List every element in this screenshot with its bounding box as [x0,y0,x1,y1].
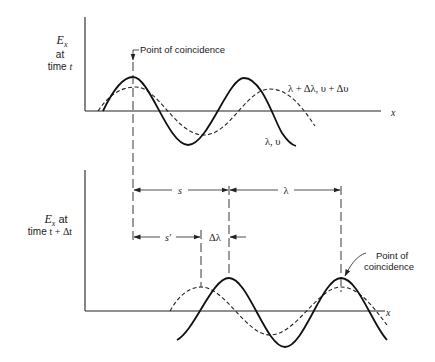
bottom-coincidence-annotation-line1: Point of [376,250,409,261]
s-prime-label: s′ [165,232,172,243]
top-panel: x Ex at time t λ + Δλ, υ + Δυ λ, υ Point… [48,17,396,147]
s-label: s [178,185,182,196]
top-coincidence-leader [133,50,139,60]
bottom-panel: x Ex at time t + Δt Point of coincidence [28,170,414,347]
top-coincidence-annotation: Point of coincidence [140,44,225,55]
top-dashed-label: λ + Δλ, υ + Δυ [288,83,349,94]
top-y-label-at: at [56,49,65,60]
bottom-x-label: x [385,307,391,318]
bottom-coincidence-leader [345,253,366,276]
top-y-label-time: time t [48,61,73,72]
top-solid-label: λ, υ [265,136,281,147]
top-y-label: Ex [56,33,68,49]
dimension-annotations: s λ s′ Δλ [134,185,340,243]
top-x-label: x [390,107,396,118]
bottom-coincidence-annotation-line2: coincidence [364,261,414,272]
delta-lambda-label: Δλ [209,232,222,243]
bottom-y-label-time: time t + Δt [28,226,73,237]
wave-group-velocity-diagram: x Ex at time t λ + Δλ, υ + Δυ λ, υ Point… [0,0,435,362]
lambda-label: λ [283,185,289,196]
